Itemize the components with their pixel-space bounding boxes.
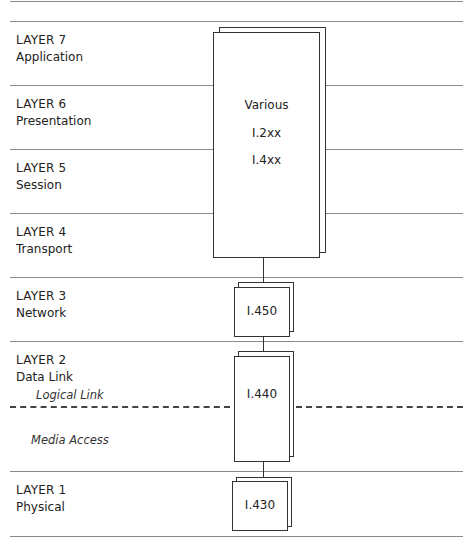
layer-1-name: Physical xyxy=(16,499,66,516)
layer-6-label: LAYER 6 Presentation xyxy=(16,96,91,130)
divider-4-3 xyxy=(10,277,463,278)
layer-5-number: LAYER 5 xyxy=(16,160,66,177)
layer-1-number: LAYER 1 xyxy=(16,482,66,499)
layer-2-name: Data Link xyxy=(16,369,73,386)
sublayer-media-access: Media Access xyxy=(31,433,109,447)
layer-2-number: LAYER 2 xyxy=(16,352,73,369)
layer-6-number: LAYER 6 xyxy=(16,96,91,113)
divider-5-4-right xyxy=(320,213,463,214)
layer-2-label: LAYER 2 Data Link xyxy=(16,352,73,386)
upper-box-i2xx: I.2xx xyxy=(214,126,319,140)
divider-6-5-right xyxy=(320,149,463,150)
layer-1-label: LAYER 1 Physical xyxy=(16,482,66,516)
divider-6-5-left xyxy=(10,149,214,150)
upper-box-various: Various xyxy=(214,98,319,112)
datalink-protocol-box: I.440 xyxy=(234,356,290,462)
layer-7-label: LAYER 7 Application xyxy=(16,32,83,66)
layer-3-name: Network xyxy=(16,305,66,322)
layer-4-name: Transport xyxy=(16,241,72,258)
divider-2-1 xyxy=(10,471,463,472)
upper-box-i4xx: I.4xx xyxy=(214,153,319,167)
network-box-i450: I.450 xyxy=(235,304,289,318)
layer-7-number: LAYER 7 xyxy=(16,32,83,49)
layer-4-number: LAYER 4 xyxy=(16,224,72,241)
divider-logical-media-right xyxy=(296,406,463,408)
divider-7-6-left xyxy=(10,85,214,86)
divider-7-6-right xyxy=(320,85,463,86)
upper-protocols-box: Various I.2xx I.4xx xyxy=(213,32,320,258)
divider-3-2 xyxy=(10,341,463,342)
bottom-rule xyxy=(10,536,463,537)
datalink-box-i440: I.440 xyxy=(235,387,289,401)
layer-6-name: Presentation xyxy=(16,113,91,130)
layer-3-number: LAYER 3 xyxy=(16,288,66,305)
layer-7-name: Application xyxy=(16,49,83,66)
network-protocol-box: I.450 xyxy=(234,287,290,337)
divider-5-4-left xyxy=(10,213,214,214)
layer-5-name: Session xyxy=(16,177,66,194)
layer-4-label: LAYER 4 Transport xyxy=(16,224,72,258)
divider-top xyxy=(10,21,463,22)
layer-3-label: LAYER 3 Network xyxy=(16,288,66,322)
physical-protocol-box: I.430 xyxy=(232,481,288,531)
layer-5-label: LAYER 5 Session xyxy=(16,160,66,194)
divider-logical-media-left xyxy=(10,406,230,408)
top-rule xyxy=(10,1,463,2)
physical-box-i430: I.430 xyxy=(233,498,287,512)
sublayer-logical-link: Logical Link xyxy=(36,388,104,402)
